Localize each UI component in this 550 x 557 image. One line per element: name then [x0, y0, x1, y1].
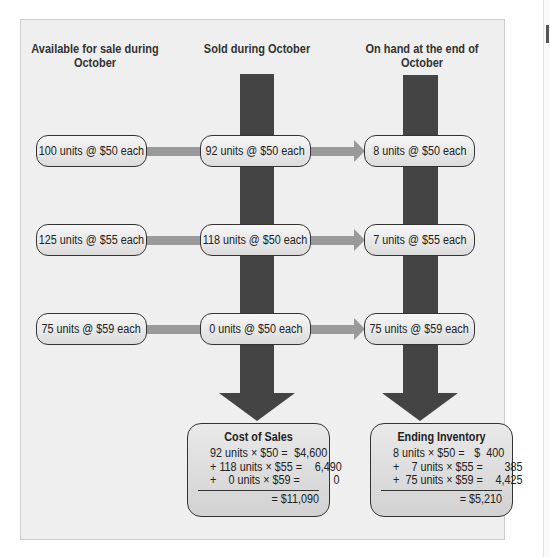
row2-sold-box: 118 units @ $50 each: [200, 224, 311, 256]
row2-arrow-available-to-sold: [147, 236, 201, 245]
row3-on-hand-box: 75 units @ $59 each: [364, 313, 475, 345]
cost-of-sales-total: = $11,090: [210, 492, 319, 506]
cost-of-sales-line: 92 units × $50 = $4,600: [210, 447, 319, 461]
page-edge: [543, 0, 550, 557]
sum-rule: [381, 490, 502, 491]
row3-arrow-available-to-sold: [147, 325, 201, 334]
row2-available-box: 125 units @ $55 each: [36, 224, 147, 256]
on-hand-down-arrow-icon: [382, 393, 458, 421]
sold-down-arrow-icon: [219, 393, 295, 421]
cost-of-sales-line: + 118 units × $55 = 6,490: [210, 461, 319, 475]
header-on-hand: On hand at the end of October: [356, 42, 488, 70]
ending-inventory-line: + 7 units × $55 = 385: [393, 461, 502, 475]
cost-of-sales-line: + 0 units × $59 = 0: [210, 474, 319, 488]
ending-inventory-line: + 75 units × $59 = 4,425: [393, 474, 502, 488]
row1-arrow-available-to-sold: [147, 147, 201, 156]
ending-inventory-title: Ending Inventory: [387, 430, 496, 444]
ending-inventory-line: 8 units × $50 = $ 400: [393, 447, 502, 461]
ending-inventory-total: = $5,210: [393, 492, 502, 506]
row3-available-box: 75 units @ $59 each: [36, 313, 147, 345]
cost-of-sales-box: Cost of Sales 92 units × $50 = $4,600 + …: [187, 423, 330, 517]
header-available: Available for sale during October: [29, 42, 161, 70]
sum-rule: [198, 490, 319, 491]
row1-on-hand-box: 8 units @ $50 each: [364, 135, 475, 167]
row3-sold-box: 0 units @ $50 each: [200, 313, 311, 345]
row3-arrow-sold-to-on-hand: [311, 325, 354, 334]
row1-sold-box: 92 units @ $50 each: [200, 135, 311, 167]
page-edge-mark: [546, 25, 549, 43]
ending-inventory-box: Ending Inventory 8 units × $50 = $ 400 +…: [370, 423, 513, 517]
cost-of-sales-title: Cost of Sales: [204, 430, 313, 444]
header-sold: Sold during October: [191, 42, 323, 56]
row2-on-hand-box: 7 units @ $55 each: [364, 224, 475, 256]
row1-arrow-sold-to-on-hand: [311, 147, 354, 156]
row2-arrow-sold-to-on-hand: [311, 236, 354, 245]
row1-available-box: 100 units @ $50 each: [36, 135, 147, 167]
